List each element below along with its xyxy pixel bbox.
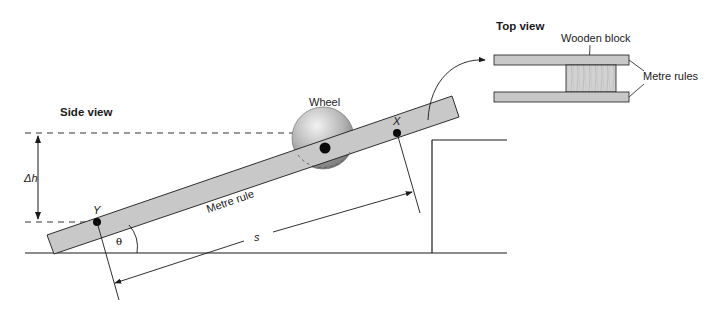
wheel-label: Wheel bbox=[309, 96, 340, 108]
delta-h-label: Δh bbox=[23, 172, 38, 184]
angle-arc bbox=[129, 225, 137, 253]
bench-support bbox=[432, 140, 507, 253]
top-metre-rule-lower bbox=[494, 92, 629, 102]
distance-s-arrow-left bbox=[115, 241, 244, 283]
side-view-title: Side view bbox=[60, 106, 112, 118]
metre-rules-leader-lower bbox=[629, 84, 644, 97]
distance-s-arrow-right bbox=[273, 192, 412, 232]
distance-s-label: s bbox=[254, 231, 260, 243]
point-y-label: Y bbox=[93, 204, 101, 216]
metre-rules-label: Metre rules bbox=[643, 70, 699, 82]
diagram-canvas: Δh Wheel X Y s Metre rule θ Side view To… bbox=[0, 0, 705, 315]
angle-theta-label: θ bbox=[116, 236, 122, 247]
metre-rules-leader-upper bbox=[629, 60, 644, 71]
wooden-block bbox=[566, 65, 616, 92]
wooden-block-label: Wooden block bbox=[561, 32, 631, 44]
top-view-title: Top view bbox=[496, 20, 544, 32]
top-metre-rule-upper bbox=[494, 55, 629, 65]
wheel-axle bbox=[320, 143, 331, 154]
point-x-label: X bbox=[392, 115, 401, 127]
extension-line-x bbox=[397, 133, 420, 213]
